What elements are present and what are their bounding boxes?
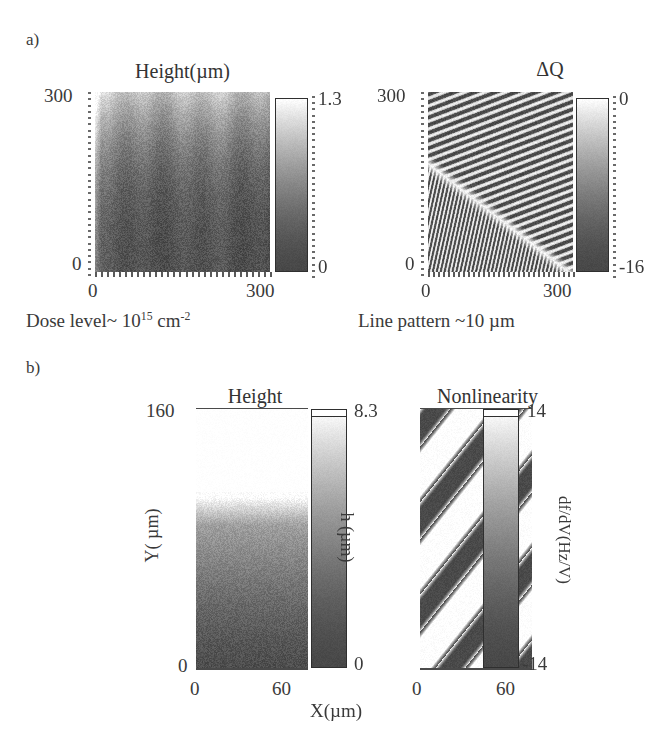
y-axis-label-b-left: Y( µm) xyxy=(142,496,163,576)
colorbar-max-b-left: 8.3 xyxy=(354,400,378,422)
caption-a-left-unit: cm xyxy=(153,310,181,331)
caption-a-left-prefix: Dose level~ 10 xyxy=(26,310,141,331)
ytick-min-b-left: 0 xyxy=(178,655,188,677)
panel-letter-b: b) xyxy=(26,358,40,378)
xtick-min-a-right: 0 xyxy=(421,280,431,302)
plot-title-a-right: ΔQ xyxy=(505,58,595,81)
xtick-max-b-left: 60 xyxy=(272,678,291,700)
colorbar-axis-label-b-left: h (µm) xyxy=(336,499,357,577)
plot-title-b-left: Height xyxy=(196,385,314,408)
plot-title-a-left: Height(µm) xyxy=(95,60,270,83)
colorbar-max-a-left: 1.3 xyxy=(318,88,342,110)
x-tick-rail-a-left xyxy=(95,272,270,275)
xtick-max-b-right: 60 xyxy=(496,678,515,700)
colorbar-max-a-right: 0 xyxy=(619,88,629,110)
colorbar-max-b-right: 14 xyxy=(527,400,546,422)
colorbar-min-b-left: 0 xyxy=(354,653,364,675)
bottom-frame-b-right xyxy=(420,668,532,670)
colorbar-cap-b-left xyxy=(311,409,347,417)
xtick-min-a-left: 0 xyxy=(88,280,98,302)
bottom-frame-b-left xyxy=(196,668,308,670)
heatmap-a-left-height xyxy=(95,92,270,272)
y-tick-rail-a-right xyxy=(421,92,424,274)
colorbar-axis-label-b-right: df/dV(Hz/V) xyxy=(554,481,574,599)
caption-a-left-exponent: 15 xyxy=(141,310,153,323)
colorbar-min-b-right: -14 xyxy=(522,653,547,675)
xtick-min-b-right: 0 xyxy=(412,678,422,700)
colorbar-cap-b-right xyxy=(483,409,519,417)
colorbar-min-a-right: -16 xyxy=(619,256,644,278)
x-tick-rail-a-right xyxy=(428,272,573,275)
colorbar-tick-rail-a-left xyxy=(312,96,315,276)
xtick-max-a-left: 300 xyxy=(246,280,275,302)
caption-a-left-unit-exponent: -2 xyxy=(181,310,191,323)
ytick-max-a-right: 300 xyxy=(377,85,406,107)
colorbar-b-right xyxy=(483,409,519,668)
ytick-min-a-left: 0 xyxy=(72,253,82,275)
colorbar-tick-rail-a-right xyxy=(613,96,616,276)
ytick-max-b-left: 160 xyxy=(146,400,175,422)
colorbar-a-left xyxy=(275,98,308,272)
caption-a-right: Line pattern ~10 µm xyxy=(358,310,515,332)
ytick-min-a-right: 0 xyxy=(405,253,415,275)
heatmap-b-left-height xyxy=(196,409,308,668)
xtick-min-b-left: 0 xyxy=(190,678,200,700)
colorbar-a-right xyxy=(576,98,609,272)
colorbar-min-a-left: 0 xyxy=(318,256,328,278)
figure-root: a) Height(µm) 300 0 0 300 1.3 0 Dose lev… xyxy=(0,0,668,740)
panel-letter-a: a) xyxy=(26,30,39,50)
heatmap-a-right-delta-q xyxy=(428,92,573,272)
ytick-max-a-left: 300 xyxy=(44,85,73,107)
y-tick-rail-a-left xyxy=(88,92,91,274)
x-axis-label-b: X(µm) xyxy=(310,700,362,722)
xtick-max-a-right: 300 xyxy=(543,280,572,302)
caption-a-left: Dose level~ 1015 cm-2 xyxy=(26,310,190,332)
